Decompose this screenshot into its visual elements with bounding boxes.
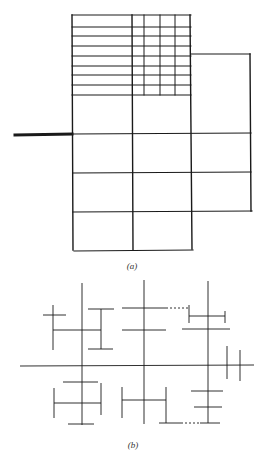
upper-middle-cluster	[122, 305, 230, 330]
panel-b-label: (b)	[128, 440, 139, 450]
right-cross-cluster	[227, 346, 240, 381]
panel-a-label-text: (a)	[127, 261, 138, 271]
panel-a-label: (a)	[127, 261, 138, 271]
panel-b-label-text: (b)	[128, 440, 139, 450]
coarse-horizontal-lines	[72, 54, 252, 251]
heavy-boundary-line	[15, 134, 72, 135]
coarse-vertical-lines	[72, 15, 251, 250]
main-horizontal-line	[20, 365, 254, 366]
lower-right-cluster	[191, 391, 223, 407]
panel-b-tree	[20, 280, 254, 425]
upper-left-cluster	[43, 305, 114, 350]
lower-left-cluster	[54, 382, 101, 424]
panel-a-grid	[15, 15, 252, 251]
lower-middle-cluster	[122, 387, 220, 423]
figure-diagram	[0, 0, 265, 455]
